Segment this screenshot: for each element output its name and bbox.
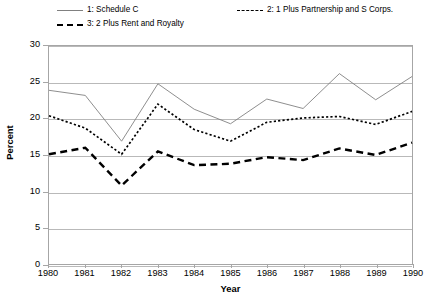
x-axis-tick-label: 1985 bbox=[220, 268, 240, 278]
legend-line-dotted-icon bbox=[237, 5, 263, 15]
legend-item-partnership-s-corps: 2: 1 Plus Partnership and S Corps. bbox=[237, 5, 393, 15]
x-axis-tick-label: 1982 bbox=[111, 268, 131, 278]
x-axis-title: Year bbox=[48, 283, 413, 294]
series-line bbox=[49, 143, 412, 186]
legend-label-1: 1: Schedule C bbox=[87, 5, 138, 15]
x-axis-tick-label: 1980 bbox=[38, 268, 58, 278]
plot-area bbox=[48, 45, 413, 265]
series-line bbox=[49, 74, 412, 142]
x-axis-tick-label: 1989 bbox=[366, 268, 386, 278]
legend-label-2: 2: 1 Plus Partnership and S Corps. bbox=[267, 5, 393, 15]
chart-legend: 1: Schedule C 2: 1 Plus Partnership and … bbox=[0, 0, 431, 36]
x-axis-tick-label: 1986 bbox=[257, 268, 277, 278]
legend-line-solid-icon bbox=[57, 5, 83, 15]
legend-line-dashed-icon bbox=[57, 19, 83, 29]
x-axis-tick-label: 1984 bbox=[184, 268, 204, 278]
x-axis-tick-label: 1990 bbox=[403, 268, 423, 278]
y-axis-title: Percent bbox=[4, 113, 15, 173]
x-axis-tick-label: 1988 bbox=[330, 268, 350, 278]
series-line bbox=[49, 104, 412, 154]
x-axis-tick-label: 1981 bbox=[74, 268, 94, 278]
series-lines bbox=[49, 46, 412, 264]
legend-label-3: 3: 2 Plus Rent and Royalty bbox=[87, 19, 184, 29]
x-axis-tick-label: 1987 bbox=[293, 268, 313, 278]
legend-item-schedule-c: 1: Schedule C bbox=[57, 5, 138, 15]
legend-item-rent-royalty: 3: 2 Plus Rent and Royalty bbox=[57, 19, 184, 29]
x-axis-tick-label: 1983 bbox=[147, 268, 167, 278]
x-axis-tick-labels: 1980198119821983198419851986198719881989… bbox=[48, 268, 413, 282]
line-chart-figure: 1: Schedule C 2: 1 Plus Partnership and … bbox=[0, 0, 431, 301]
